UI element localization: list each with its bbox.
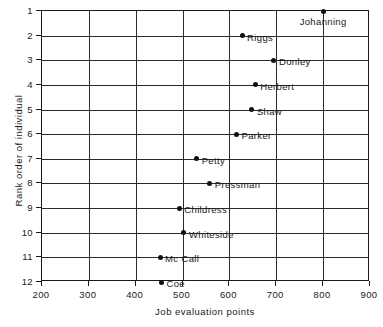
tick-label-x: 500 [173, 289, 190, 300]
y-axis-title: Rank order of individual [13, 81, 24, 221]
tick-label-y: 2 [3, 29, 33, 40]
tick-mark-y [36, 256, 41, 257]
data-point-marker[interactable] [207, 181, 212, 186]
tick-label-x: 200 [32, 289, 49, 300]
data-point-label: Herbert [260, 80, 294, 91]
tick-label-y: 10 [3, 226, 33, 237]
gridline-vertical [183, 11, 184, 280]
tick-mark-x [369, 281, 370, 286]
data-point-marker[interactable] [159, 280, 164, 285]
gridline-horizontal [42, 60, 368, 61]
tick-label-y: 1 [3, 5, 33, 16]
tick-label-x: 900 [360, 289, 377, 300]
tick-mark-x [322, 281, 323, 286]
tick-label-y: 12 [3, 276, 33, 287]
gridline-horizontal [42, 257, 368, 258]
tick-mark-x [275, 281, 276, 286]
gridline-vertical [136, 11, 137, 280]
data-point-marker[interactable] [234, 132, 239, 137]
data-point-marker[interactable] [253, 82, 258, 87]
data-point-label: Whiteside [189, 228, 234, 239]
tick-mark-x [88, 281, 89, 286]
tick-mark-y [36, 281, 41, 282]
data-point-label: Shaw [257, 105, 282, 116]
tick-label-y: 11 [3, 251, 33, 262]
tick-label-x: 300 [79, 289, 96, 300]
gridline-horizontal [42, 183, 368, 184]
tick-mark-y [36, 10, 41, 11]
tick-label-x: 700 [267, 289, 284, 300]
data-point-label: Childress [184, 204, 227, 215]
data-point-marker[interactable] [321, 9, 326, 14]
x-axis-title: Job evaluation points [41, 306, 369, 317]
tick-mark-y [36, 109, 41, 110]
tick-mark-y [36, 59, 41, 60]
data-point-marker[interactable] [181, 230, 186, 235]
tick-mark-x [41, 281, 42, 286]
plot-area: JohanningRiggsDonleyHerbertShawParkerPet… [41, 10, 369, 281]
scatter-chart-figure: JohanningRiggsDonleyHerbertShawParkerPet… [0, 0, 383, 327]
data-point-label: Riggs [247, 31, 273, 42]
tick-mark-x [228, 281, 229, 286]
data-point-marker[interactable] [158, 255, 163, 260]
gridline-vertical [276, 11, 277, 280]
data-point-marker[interactable] [177, 206, 182, 211]
gridline-horizontal [42, 85, 368, 86]
gridline-vertical [229, 11, 230, 280]
data-point-label: Pressman [215, 179, 261, 190]
gridline-vertical [89, 11, 90, 280]
tick-mark-x [135, 281, 136, 286]
gridline-horizontal [42, 134, 368, 135]
tick-mark-y [36, 232, 41, 233]
data-point-label: Petty [202, 154, 225, 165]
data-point-label: Mc Call [165, 253, 199, 264]
tick-mark-y [36, 133, 41, 134]
data-point-marker[interactable] [249, 107, 254, 112]
tick-label-y: 3 [3, 54, 33, 65]
data-point-label: Donley [279, 56, 311, 67]
data-point-label: Parker [241, 130, 271, 141]
gridline-vertical [323, 11, 324, 280]
tick-label-x: 800 [314, 289, 331, 300]
gridline-horizontal [42, 110, 368, 111]
gridline-horizontal [42, 36, 368, 37]
tick-mark-y [36, 207, 41, 208]
tick-mark-y [36, 35, 41, 36]
data-point-marker[interactable] [240, 33, 245, 38]
tick-mark-x [182, 281, 183, 286]
data-point-label: Johanning [300, 16, 347, 27]
tick-mark-y [36, 158, 41, 159]
tick-label-x: 600 [220, 289, 237, 300]
tick-label-x: 400 [126, 289, 143, 300]
data-point-marker[interactable] [194, 156, 199, 161]
tick-mark-y [36, 84, 41, 85]
tick-mark-y [36, 182, 41, 183]
